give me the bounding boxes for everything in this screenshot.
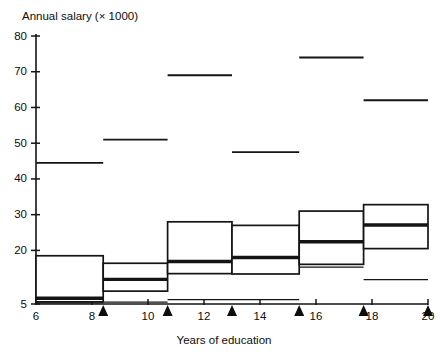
y-tick-label: 40: [14, 172, 27, 184]
boxes-layer: [36, 205, 428, 302]
box-rect: [299, 211, 363, 264]
x-tick-label: 16: [310, 310, 323, 322]
y-tick-label: 80: [14, 30, 27, 42]
y-tick-label: 5: [21, 298, 27, 310]
chart-canvas: Annual salary (× 1000) 520304050607080 6…: [0, 0, 440, 355]
y-tick-label: 20: [14, 244, 27, 256]
box-plot-figure: Annual salary (× 1000) 520304050607080 6…: [0, 0, 440, 355]
chart-title: Annual salary (× 1000): [22, 10, 138, 22]
box-rect: [103, 263, 167, 291]
y-tick-label: 30: [14, 208, 27, 220]
x-tick-label: 14: [254, 310, 267, 322]
box-rect: [168, 222, 232, 274]
box-rect: [36, 256, 103, 302]
x-axis-title: Years of education: [177, 334, 272, 346]
x-tick-label: 6: [33, 310, 39, 322]
x-tick-label: 12: [198, 310, 211, 322]
y-tick-label: 70: [14, 65, 27, 77]
group-boundary-marker: [163, 305, 173, 316]
box-rect: [232, 225, 299, 274]
x-tick-label: 8: [89, 310, 95, 322]
y-tick-label: 60: [14, 101, 27, 113]
y-tick-label: 50: [14, 137, 27, 149]
x-tick-label: 10: [142, 310, 155, 322]
group-boundary-marker: [227, 305, 237, 316]
group-boundary-marker: [98, 305, 108, 316]
group-boundary-marker: [294, 305, 304, 316]
